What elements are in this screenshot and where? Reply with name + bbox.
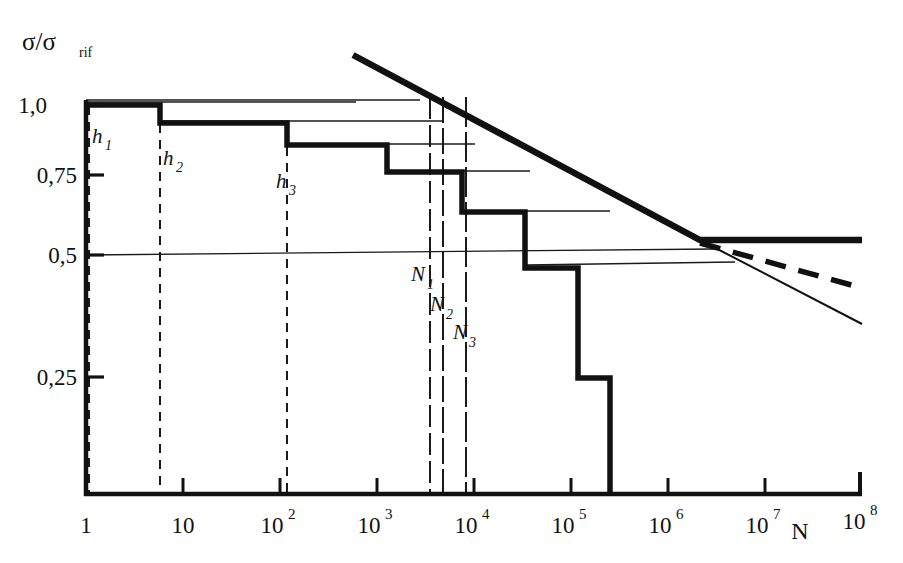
x-tick-label-1e4-mantissa: 10 <box>455 513 478 538</box>
y-axis-label-main: σ/σ <box>22 28 56 55</box>
x-tick-label-1e7-mantissa: 10 <box>746 513 769 538</box>
annotation-N2-subscript: 2 <box>446 307 453 322</box>
chart-canvas: σ/σ rif 1,0 0,75 0,5 0,25 1 10 10 2 10 3… <box>0 0 903 563</box>
annotation-h1-label: h <box>92 124 103 148</box>
x-tick-label-1e5-mantissa: 10 <box>552 513 575 538</box>
x-tick-label-1e3-exponent: 3 <box>385 506 393 522</box>
x-tick-label-1: 1 <box>80 513 92 538</box>
annotation-h2-label: h <box>163 146 174 170</box>
annotation-N1-subscript: 1 <box>427 277 434 292</box>
y-tick-label-075: 0,75 <box>37 163 77 188</box>
y-tick-label-1: 1,0 <box>18 93 47 118</box>
x-tick-label-1e6-mantissa: 10 <box>649 513 672 538</box>
x-tick-label-1e4-exponent: 4 <box>482 506 490 522</box>
y-axis-label-subscript: rif <box>79 45 93 60</box>
x-tick-label-1e2-exponent: 2 <box>288 506 296 522</box>
x-tick-label-1e3-mantissa: 10 <box>358 513 381 538</box>
fatigue-damage-accumulation-chart: σ/σ rif 1,0 0,75 0,5 0,25 1 10 10 2 10 3… <box>0 0 903 563</box>
x-tick-label-1e8-exponent: 8 <box>870 502 878 518</box>
annotation-N3-label: N <box>452 320 468 344</box>
y-tick-label-025: 0,25 <box>37 365 77 390</box>
x-tick-label-1e2-mantissa: 10 <box>261 513 284 538</box>
x-axis-name: N <box>791 518 808 544</box>
annotation-N1-label: N <box>410 262 426 286</box>
annotation-h2-subscript: 2 <box>176 160 183 175</box>
x-tick-label-1e7-exponent: 7 <box>773 506 781 522</box>
annotation-N2-label: N <box>429 292 445 316</box>
annotation-N3-subscript: 3 <box>468 335 476 350</box>
x-tick-label-1e8-mantissa: 10 <box>843 509 866 534</box>
x-tick-label-10: 10 <box>172 513 195 538</box>
annotation-h3-subscript: 3 <box>288 183 296 198</box>
annotation-h3-label: h <box>276 169 287 193</box>
annotation-h1-subscript: 1 <box>105 138 112 153</box>
x-tick-label-1e5-exponent: 5 <box>579 506 587 522</box>
y-tick-label-05: 0,5 <box>48 243 77 268</box>
x-tick-label-1e6-exponent: 6 <box>676 506 684 522</box>
chart-background <box>0 0 903 563</box>
